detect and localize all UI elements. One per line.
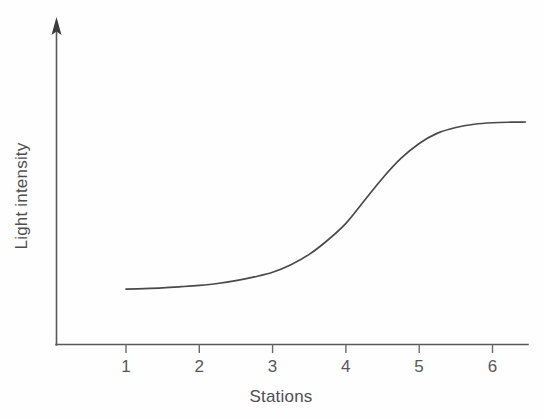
y-axis: [52, 17, 62, 345]
light-intensity-curve: [126, 122, 525, 289]
x-tick-label-6: 6: [488, 357, 498, 376]
x-tick-label-4: 4: [341, 357, 351, 376]
x-axis: [56, 345, 528, 354]
x-tick-label-1: 1: [121, 357, 131, 376]
y-axis-title: Light intensity: [12, 142, 31, 249]
x-tick-label-2: 2: [194, 357, 204, 376]
x-tick-label-3: 3: [268, 357, 278, 376]
x-tick-labels: 1 2 3 4 5 6: [121, 357, 497, 376]
chart-figure: 1 2 3 4 5 6 Stations Light intensity: [0, 0, 545, 419]
x-tick-label-5: 5: [414, 357, 424, 376]
x-axis-title: Stations: [249, 387, 312, 406]
chart-plot-area: 1 2 3 4 5 6 Stations Light intensity: [0, 0, 545, 419]
